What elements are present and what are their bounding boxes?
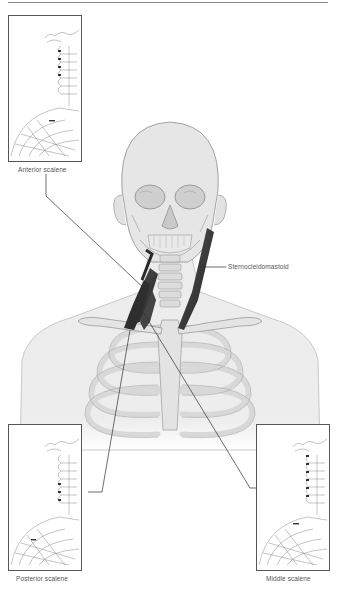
neck-lateral-sketch (9, 16, 81, 161)
neck-lateral-sketch (257, 425, 329, 570)
label-sternocleidomastoid: Sternocleidomastoid (228, 263, 289, 270)
label-anterior-scalene: Anterior scalene (18, 166, 67, 173)
inset-anterior-scalene (8, 15, 82, 162)
neck-lateral-sketch (9, 425, 81, 570)
label-middle-scalene: Middle scalene (266, 575, 311, 582)
inset-middle-scalene (256, 424, 330, 571)
inset-posterior-scalene (8, 424, 82, 571)
label-posterior-scalene: Posterior scalene (16, 575, 68, 582)
